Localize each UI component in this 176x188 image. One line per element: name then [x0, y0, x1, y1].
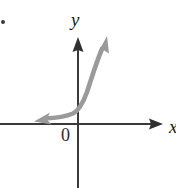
- exponential-curve: [45, 49, 102, 119]
- origin-label: 0: [61, 126, 70, 144]
- graph-canvas: [0, 0, 176, 188]
- y-axis-arrowhead-icon: [73, 37, 84, 52]
- corner-mark: [1, 20, 5, 24]
- graph-figure: y x 0: [0, 0, 176, 188]
- x-axis-arrowhead-icon: [149, 119, 163, 130]
- y-axis-label: y: [71, 10, 79, 29]
- x-axis-label: x: [169, 117, 176, 136]
